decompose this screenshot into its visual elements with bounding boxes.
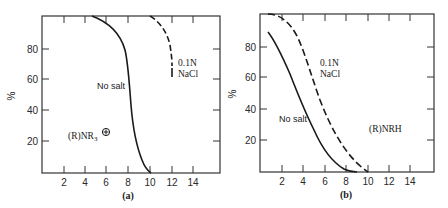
- panel-b-xtick-8: 8: [343, 176, 349, 187]
- positive-charge-icon: [102, 128, 109, 135]
- panel-a-no-salt-label: No salt: [97, 81, 126, 91]
- panel-b-xtick-4: 4: [300, 176, 306, 187]
- panel-a-ytick-20: 20: [27, 136, 39, 147]
- panel-a-ylabel: %: [6, 91, 17, 100]
- panel-a-xtick-2: 2: [61, 177, 67, 188]
- panel-b-no-salt-curve: [268, 32, 357, 172]
- panel-b-x-ticks: [282, 14, 410, 172]
- panel-b-ytick-20: 20: [245, 135, 257, 146]
- panel-b-frame: [260, 14, 434, 172]
- panel-b-no-salt-label: No salt: [279, 114, 308, 124]
- panel-b-xtick-12: 12: [383, 176, 395, 187]
- panel-b-xtick-10: 10: [362, 176, 374, 187]
- panel-a-xtick-10: 10: [144, 177, 156, 188]
- panel-a-nacl-label-line2: NaCl: [178, 69, 198, 79]
- panel-b-label: (b): [340, 189, 352, 201]
- panel-a-no-salt-curve: [92, 16, 151, 173]
- panel-a-nacl-curve: [150, 16, 172, 66]
- panel-a-nacl-label-line1: 0.1N: [178, 58, 197, 68]
- panel-a-x-ticks: [64, 16, 193, 173]
- panel-b-ytick-60: 60: [245, 72, 257, 83]
- panel-b-nacl-curve: [268, 14, 368, 172]
- panel-b-nacl-label-line1: 0.1N: [320, 58, 339, 68]
- panel-a-ytick-40: 40: [27, 105, 39, 116]
- panel-a-xtick-12: 12: [166, 177, 178, 188]
- panel-a-xtick-14: 14: [187, 177, 199, 188]
- panel-b-xtick-14: 14: [404, 176, 416, 187]
- panel-a-xtick-6: 6: [103, 177, 109, 188]
- panel-b-y-ticks: [260, 47, 434, 140]
- panel-a-ytick-60: 60: [27, 74, 39, 85]
- panel-a-label: (a): [122, 190, 134, 202]
- panel-a-frame: [42, 16, 220, 173]
- panel-b-ytick-40: 40: [245, 104, 257, 115]
- panel-a: 80 60 40 20 % 2 4 6 8 10 12 14 (a) No sa…: [6, 16, 220, 202]
- panel-b-ylabel: %: [227, 89, 238, 98]
- panel-b: 80 60 40 20 % 2 4 6 8 10 12 14 (b) 0.1N …: [227, 14, 434, 201]
- panel-b-ytick-80: 80: [245, 42, 257, 53]
- figure: 80 60 40 20 % 2 4 6 8 10 12 14 (a) No sa…: [0, 0, 448, 208]
- panel-a-ytick-80: 80: [27, 44, 39, 55]
- panel-b-xtick-6: 6: [322, 176, 328, 187]
- panel-a-species-label: (R)NR3: [68, 131, 98, 143]
- panel-a-xtick-4: 4: [82, 177, 88, 188]
- panel-b-nacl-label-line2: NaCl: [320, 69, 340, 79]
- panel-a-xtick-8: 8: [125, 177, 131, 188]
- panel-b-species-label: (R)NRH: [369, 124, 402, 135]
- panel-b-xtick-2: 2: [279, 176, 285, 187]
